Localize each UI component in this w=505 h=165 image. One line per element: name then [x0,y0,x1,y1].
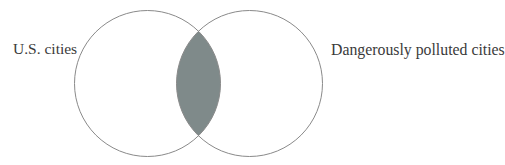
set-label-us-cities: U.S. cities [13,41,77,57]
intersection-region [177,11,323,157]
set-label-dangerously-polluted-cities: Dangerously polluted cities [331,42,505,58]
